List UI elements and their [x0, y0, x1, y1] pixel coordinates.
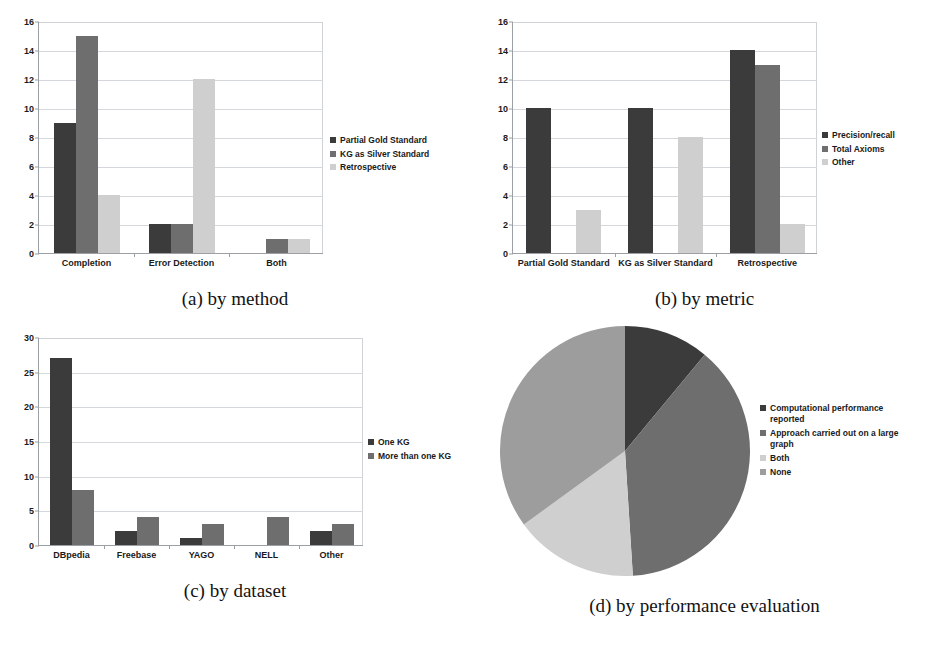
y-axis-tick-label: 14	[24, 47, 34, 56]
pie-chart-d	[500, 326, 750, 576]
x-axis-category-label: Error Detection	[149, 259, 215, 268]
y-tick-mark	[35, 476, 39, 477]
y-tick-mark	[35, 167, 39, 168]
y-axis-tick-label: 6	[29, 163, 34, 172]
legend-label: Other	[832, 157, 855, 168]
gridline	[39, 373, 363, 374]
y-axis-tick-label: 5	[29, 507, 34, 516]
x-axis-category-label: KG as Silver Standard	[618, 259, 713, 268]
y-tick-mark	[35, 254, 39, 255]
bar	[202, 524, 224, 545]
legend-swatch-icon	[330, 151, 336, 157]
legend-swatch-icon	[330, 164, 336, 170]
y-tick-mark	[35, 51, 39, 52]
caption-a: (a) by method	[0, 288, 470, 310]
legend-label: Total Axioms	[832, 144, 884, 155]
plot-frame-top	[39, 338, 363, 339]
bar	[310, 531, 332, 545]
y-tick-mark	[35, 196, 39, 197]
y-axis-tick-label: 10	[24, 105, 34, 114]
legend-swatch-icon	[368, 453, 374, 459]
bar	[267, 517, 289, 545]
bar	[576, 210, 601, 254]
y-tick-mark	[509, 109, 513, 110]
panel-b-by-metric: 0246810121416Partial Gold StandardKG as …	[470, 0, 939, 310]
bar	[266, 239, 288, 254]
bar	[678, 137, 703, 253]
legend-label: Approach carried out on a large graph	[770, 428, 898, 450]
x-axis-category-label: Partial Gold Standard	[518, 259, 610, 268]
y-tick-mark	[509, 22, 513, 23]
legend-label: Partial Gold Standard	[340, 135, 427, 146]
y-axis-tick-label: 12	[24, 76, 34, 85]
y-tick-mark	[35, 546, 39, 547]
panel-a-by-method: 0246810121416CompletionError DetectionBo…	[0, 0, 470, 310]
x-tick-mark	[229, 253, 230, 257]
y-axis-tick-label: 8	[503, 134, 508, 143]
legend-label: None	[770, 467, 791, 478]
x-tick-mark	[615, 253, 616, 257]
pie-svg	[500, 326, 750, 576]
bar	[171, 224, 193, 253]
legend-item: Precision/recall	[822, 130, 939, 141]
y-axis-tick-label: 2	[503, 221, 508, 230]
caption-c: (c) by dataset	[0, 580, 470, 602]
x-axis-category-label: YAGO	[189, 551, 215, 560]
y-tick-mark	[509, 51, 513, 52]
legend-item: Retrospective	[330, 162, 460, 173]
legend-swatch-icon	[368, 439, 374, 445]
bar	[115, 531, 137, 545]
plot-area-c: 051015202530DBpediaFreebaseYAGONELLOther	[38, 338, 363, 546]
legend-label: One KG	[378, 437, 410, 448]
legend-label: Retrospective	[340, 162, 396, 173]
legend-item: One KG	[368, 437, 468, 448]
legend-item: KG as Silver Standard	[330, 149, 460, 160]
legend-item: Both	[760, 453, 935, 464]
y-tick-mark	[35, 372, 39, 373]
x-axis-category-label: Other	[319, 551, 343, 560]
bar	[180, 538, 202, 545]
y-axis-tick-label: 6	[503, 163, 508, 172]
bar	[526, 108, 551, 253]
plot-frame-top	[513, 22, 817, 23]
y-axis-tick-label: 8	[29, 134, 34, 143]
y-tick-mark	[509, 80, 513, 81]
y-axis-tick-label: 14	[498, 47, 508, 56]
y-tick-mark	[509, 138, 513, 139]
legend-item: Other	[822, 157, 939, 168]
y-axis-tick-label: 15	[24, 438, 34, 447]
legend-a: Partial Gold StandardKG as Silver Standa…	[330, 135, 460, 176]
legend-swatch-icon	[822, 146, 828, 152]
bar	[72, 490, 94, 545]
panel-c-by-dataset: 051015202530DBpediaFreebaseYAGONELLOther…	[0, 318, 470, 661]
y-axis-tick-label: 4	[29, 192, 34, 201]
legend-item: More than one KG	[368, 451, 468, 462]
bar	[730, 50, 755, 253]
y-axis-tick-label: 0	[29, 542, 34, 551]
legend-item: Total Axioms	[822, 144, 939, 155]
legend-d: Computational performance reportedApproa…	[760, 403, 935, 480]
bar	[50, 358, 72, 545]
legend-item: None	[760, 467, 935, 478]
caption-b: (b) by metric	[470, 288, 939, 310]
x-axis-category-label: DBpedia	[53, 551, 90, 560]
y-axis-tick-label: 10	[24, 472, 34, 481]
y-axis-tick-label: 16	[24, 18, 34, 27]
legend-item: Approach carried out on a large graph	[760, 428, 935, 450]
legend-item: Computational performance reported	[760, 403, 935, 425]
bar	[98, 195, 120, 253]
legend-label: Precision/recall	[832, 130, 895, 141]
y-axis-tick-label: 10	[498, 105, 508, 114]
figure-root: 0246810121416CompletionError DetectionBo…	[0, 0, 939, 661]
legend-label: KG as Silver Standard	[340, 149, 429, 160]
y-axis-tick-label: 0	[29, 250, 34, 259]
y-axis-tick-label: 12	[498, 76, 508, 85]
y-tick-mark	[35, 338, 39, 339]
gridline	[39, 477, 363, 478]
bar	[76, 36, 98, 254]
legend-label: Both	[770, 453, 789, 464]
y-tick-mark	[509, 196, 513, 197]
legend-b: Precision/recallTotal AxiomsOther	[822, 130, 939, 171]
legend-item: Partial Gold Standard	[330, 135, 460, 146]
y-axis-tick-label: 20	[24, 403, 34, 412]
